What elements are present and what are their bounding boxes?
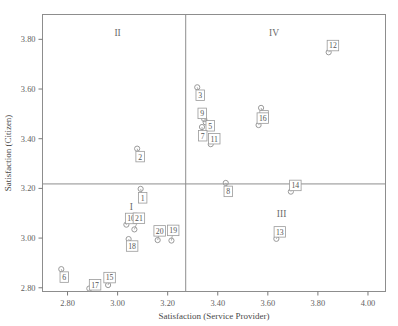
plot-frame [43, 15, 386, 292]
x-axis-tick-label: 2.80 [60, 299, 75, 308]
x-axis-tick-label: 3.20 [160, 299, 175, 308]
data-point[interactable]: 1 [138, 186, 147, 203]
axes-layer: 2.803.003.203.403.603.804.002.803.003.20… [21, 15, 386, 308]
y-axis-tick-label: 3.40 [21, 135, 36, 144]
x-axis-title: Satisfaction (Service Provider) [159, 311, 270, 321]
data-point[interactable]: 13 [274, 227, 286, 242]
data-point[interactable]: 2 [135, 146, 145, 162]
quadrant-divider-layer [43, 15, 386, 292]
quadrant-label-i: I [130, 202, 133, 212]
data-point[interactable]: 20 [154, 226, 166, 243]
point-label-text: 18 [128, 242, 136, 251]
data-point[interactable]: 12 [326, 40, 339, 55]
data-point[interactable]: 17 [87, 280, 101, 292]
point-label-text: 7 [201, 132, 205, 141]
data-point[interactable]: 21 [132, 213, 145, 232]
data-point[interactable]: 6 [59, 267, 69, 283]
point-label-text: 20 [156, 227, 164, 236]
point-label-text: 8 [226, 187, 230, 196]
point-label-text: 15 [106, 273, 114, 282]
scatter-marker[interactable] [135, 146, 140, 151]
data-point[interactable]: 3 [195, 85, 205, 101]
point-label-text: 16 [259, 114, 267, 123]
quadrant-label-iv: IV [269, 28, 279, 38]
data-points-layer: 123456789101112131415161718192021 [59, 40, 339, 291]
x-axis-tick-label: 3.60 [261, 299, 276, 308]
point-label-text: 1 [141, 194, 145, 203]
point-label-text: 2 [138, 153, 142, 162]
data-point[interactable]: 18 [126, 236, 138, 251]
point-label-text: 3 [198, 91, 202, 100]
data-point[interactable]: 19 [167, 225, 179, 243]
data-point[interactable]: 15 [104, 272, 116, 287]
y-axis-tick-label: 3.60 [21, 85, 36, 94]
x-axis-tick-label: 3.40 [210, 299, 225, 308]
scatter-marker[interactable] [195, 85, 200, 90]
y-axis-tick-label: 3.80 [21, 35, 36, 44]
y-axis-tick-label: 3.00 [21, 234, 36, 243]
data-point[interactable]: 14 [288, 180, 301, 194]
point-label-text: 5 [208, 122, 212, 131]
x-axis-tick-label: 3.80 [311, 299, 326, 308]
plot-canvas: 2.803.003.203.403.603.804.002.803.003.20… [0, 0, 398, 326]
scatter-marker[interactable] [223, 180, 228, 185]
point-label-text: 17 [91, 281, 99, 290]
y-axis-tick-label: 3.20 [21, 184, 36, 193]
scatter-plot-figure: 2.803.003.203.403.603.804.002.803.003.20… [0, 0, 398, 326]
point-label-text: 21 [135, 214, 143, 223]
point-label-text: 6 [62, 273, 66, 282]
quadrant-label-ii: II [114, 28, 120, 38]
point-label-text: 13 [276, 228, 284, 237]
point-label-text: 14 [291, 181, 299, 190]
data-point[interactable]: 16 [256, 113, 269, 128]
point-label-text: 12 [329, 41, 337, 50]
data-point[interactable]: 8 [223, 180, 232, 196]
y-axis-title: Satisfaction (Citizen) [3, 115, 13, 192]
point-label-text: 19 [169, 226, 177, 235]
data-point[interactable]: 11 [208, 133, 220, 146]
x-axis-tick-label: 3.00 [110, 299, 125, 308]
x-axis-tick-label: 4.00 [361, 299, 376, 308]
quadrant-label-iii: III [277, 209, 287, 219]
point-label-text: 11 [210, 135, 218, 144]
point-label-text: 9 [200, 109, 204, 118]
y-axis-tick-label: 2.80 [21, 284, 36, 293]
